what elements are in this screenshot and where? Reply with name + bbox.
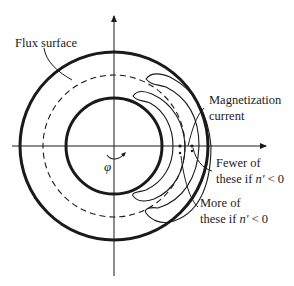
more-label-line2: these if n' < 0 xyxy=(200,212,268,226)
current-dot xyxy=(191,150,193,152)
current-dot xyxy=(178,144,181,147)
current-dot xyxy=(179,152,181,154)
more-label-line1: More of xyxy=(200,196,241,210)
fewer-label-line1: Fewer of xyxy=(216,156,262,170)
flux-surface-label: Flux surface xyxy=(15,36,78,50)
phi-label: φ xyxy=(104,159,111,174)
fewer-label-line2: these if n' < 0 xyxy=(216,172,284,186)
current-dot xyxy=(190,144,193,147)
magnetization-current-diagram: φ Flux surface Magnetization current Few… xyxy=(0,0,294,286)
magnetization-current-label-line2: current xyxy=(209,109,245,123)
magnetization-current-label-line1: Magnetization xyxy=(209,93,282,107)
